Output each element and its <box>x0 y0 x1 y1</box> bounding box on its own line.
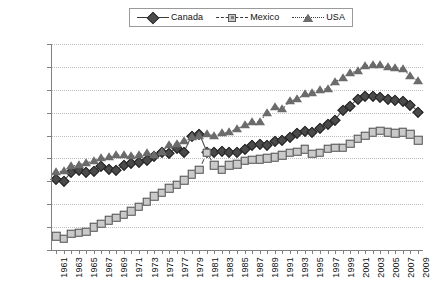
x-axis-label: 1965 <box>90 257 99 278</box>
x-axis-label: 1995 <box>316 257 325 278</box>
x-axis-label: 2009 <box>422 257 431 278</box>
x-axis-label: 1981 <box>211 257 220 278</box>
legend-item-canada[interactable]: Canada <box>137 9 203 26</box>
data-point-usa <box>157 147 167 155</box>
x-axis-label: 1997 <box>332 257 341 278</box>
x-axis-label: 1983 <box>226 257 235 278</box>
x-axis-label: 1975 <box>166 257 175 278</box>
x-axis-label: 1993 <box>301 257 310 278</box>
x-axis-label: 1963 <box>75 257 84 278</box>
x-axis-label: 2005 <box>392 257 401 278</box>
x-axis-label: 1967 <box>105 257 114 278</box>
legend-item-mexico[interactable]: Mexico <box>216 9 279 26</box>
x-axis-label: 1961 <box>60 257 69 278</box>
x-axis-label: 1991 <box>286 257 295 278</box>
data-point-usa <box>277 104 287 112</box>
line-chart: Canada Mexico USA 4,0003,8003,6003,4003,… <box>0 0 435 304</box>
data-point-mexico <box>414 136 423 145</box>
x-axis-label: 1969 <box>120 257 129 278</box>
chart-legend: Canada Mexico USA <box>129 8 353 27</box>
legend-label-usa: USA <box>326 13 345 22</box>
x-axis-label: 2007 <box>407 257 416 278</box>
data-point-mexico <box>195 166 204 175</box>
data-point-mexico <box>203 148 212 157</box>
x-axis-line <box>51 250 423 251</box>
x-axis-label: 1971 <box>135 257 144 278</box>
x-axis-label: 1987 <box>256 257 265 278</box>
data-point-usa <box>255 117 265 125</box>
x-axis-label: 1999 <box>347 257 356 278</box>
legend-item-usa[interactable]: USA <box>292 9 345 26</box>
y-axis-line <box>51 44 52 250</box>
x-axis-label: 1989 <box>271 257 280 278</box>
x-axis-label: 1973 <box>151 257 160 278</box>
x-axis-label: 1985 <box>241 257 250 278</box>
diamond-marker-icon <box>137 12 169 23</box>
data-point-usa <box>323 84 333 92</box>
x-axis-label: 2001 <box>362 257 371 278</box>
legend-label-mexico: Mexico <box>250 13 279 22</box>
x-axis-label: 1979 <box>196 257 205 278</box>
triangle-marker-icon <box>292 12 324 23</box>
legend-label-canada: Canada <box>171 13 203 22</box>
x-axis-label: 2003 <box>377 257 386 278</box>
data-point-usa <box>413 76 423 84</box>
x-axis-label: 1977 <box>181 257 190 278</box>
square-marker-icon <box>216 12 248 23</box>
plot-area <box>51 44 423 250</box>
